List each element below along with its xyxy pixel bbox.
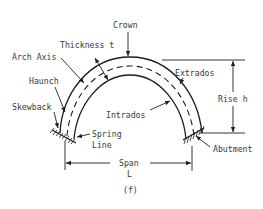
skewback-leader [54, 112, 58, 128]
abutment-label: Abutment [213, 144, 253, 154]
arch-diagram: Rise h Span L Crown Thickness t Arch Axi… [0, 0, 263, 209]
intrados-curve [74, 75, 186, 139]
arch-axis-leader [61, 58, 84, 83]
extrados-label: Extrados [175, 68, 215, 78]
span-symbol: L [127, 169, 132, 179]
thickness-label: Thickness t [60, 40, 114, 50]
skewback-label: Skewback [12, 102, 52, 112]
spring-line-label-1: Spring [92, 129, 122, 139]
figure-caption: (f) [123, 185, 138, 195]
rise-label: Rise h [218, 94, 248, 104]
spring-line-label-2: Line [92, 140, 112, 150]
span-label: Span [119, 158, 139, 168]
intrados-leader [150, 101, 170, 110]
abutment-leader [196, 136, 210, 147]
left-skewback-hatch [50, 128, 76, 144]
haunch-leader [55, 87, 65, 112]
crown-label: Crown [113, 20, 138, 30]
spring-line-leader [77, 134, 90, 137]
haunch-label: Haunch [29, 76, 59, 86]
intrados-label: Intrados [106, 110, 146, 120]
arch-axis-label: Arch Axis [12, 52, 56, 62]
